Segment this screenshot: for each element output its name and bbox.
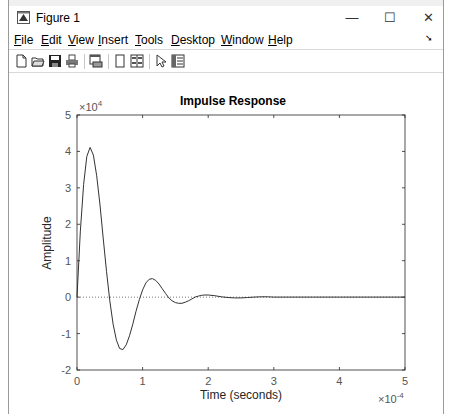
- window-title: Figure 1: [36, 11, 80, 25]
- menu-help-accel: H: [268, 33, 277, 47]
- property-inspector-icon[interactable]: [171, 54, 185, 68]
- x-axis-exponent: ×10-4: [378, 391, 404, 405]
- title-bar[interactable]: Figure 1 — ☐ ✕: [9, 6, 443, 30]
- figure-window: Figure 1 — ☐ ✕ File Edit View Insert Too…: [8, 0, 444, 414]
- hide-plot-tools-icon[interactable]: [113, 54, 127, 68]
- svg-text:×104: ×104: [79, 99, 103, 113]
- x-tick-label: 0: [74, 375, 80, 387]
- toolbar-separator: [108, 54, 109, 69]
- x-tick-label: 1: [140, 375, 146, 387]
- menu-window-accel: W: [221, 33, 232, 47]
- y-tick-label: -2: [61, 364, 71, 376]
- menu-file-label: ile: [21, 33, 33, 47]
- x-tick-label: 5: [402, 375, 408, 387]
- menu-view-label: iew: [76, 33, 94, 47]
- maximize-button[interactable]: ☐: [375, 8, 405, 28]
- menu-help[interactable]: Help: [268, 33, 293, 47]
- toolbar-separator: [149, 54, 150, 69]
- link-plot-icon[interactable]: [89, 54, 103, 68]
- menu-desktop[interactable]: Desktop: [171, 33, 215, 47]
- print-icon[interactable]: [65, 54, 79, 68]
- y-tick-label: 5: [65, 109, 71, 121]
- y-axis-label: Amplitude: [40, 216, 54, 270]
- impulse-curve: [77, 147, 405, 349]
- menu-tools-label: ools: [141, 33, 163, 47]
- figure-canvas[interactable]: Impulse Response Amplitude Time (seconds…: [9, 73, 443, 414]
- menu-view[interactable]: View: [68, 33, 94, 47]
- menu-file[interactable]: File: [14, 33, 33, 47]
- menu-edit-label: dit: [49, 33, 62, 47]
- menu-view-accel: V: [68, 33, 76, 47]
- open-file-icon[interactable]: [31, 54, 45, 68]
- toolbar-separator: [84, 54, 85, 69]
- show-plot-tools-icon[interactable]: [130, 54, 144, 68]
- menu-edit-accel: E: [41, 33, 49, 47]
- dock-arrow-icon[interactable]: ➘: [425, 33, 433, 43]
- menu-help-label: elp: [277, 33, 293, 47]
- y-tick-label: 1: [65, 255, 71, 267]
- menu-bar: File Edit View Insert Tools Desktop Wind…: [9, 30, 443, 49]
- menu-desktop-accel: D: [171, 33, 180, 47]
- y-tick-label: 3: [65, 182, 71, 194]
- x-tick-label: 3: [271, 375, 277, 387]
- figure-toolbar: [9, 49, 443, 73]
- axes-box: [77, 115, 405, 370]
- menu-window[interactable]: Window: [221, 33, 264, 47]
- menu-window-label: indow: [232, 33, 263, 47]
- edit-plot-arrow-icon[interactable]: [154, 54, 168, 68]
- x-tick-label: 2: [205, 375, 211, 387]
- chart-title: Impulse Response: [180, 94, 286, 108]
- menu-desktop-label: esktop: [180, 33, 215, 47]
- menu-tools[interactable]: Tools: [135, 33, 163, 47]
- svg-text:×10-4: ×10-4: [378, 391, 404, 405]
- minimize-button[interactable]: —: [337, 8, 367, 28]
- menu-insert[interactable]: Insert: [98, 33, 128, 47]
- menu-insert-label: nsert: [101, 33, 128, 47]
- y-tick-label: 4: [65, 145, 71, 157]
- save-icon[interactable]: [48, 54, 62, 68]
- impulse-response-chart[interactable]: Impulse Response Amplitude Time (seconds…: [9, 73, 445, 414]
- x-axis-label: Time (seconds): [200, 388, 282, 402]
- close-button[interactable]: ✕: [413, 8, 443, 28]
- new-figure-icon[interactable]: [14, 54, 28, 68]
- y-tick-label: 0: [65, 291, 71, 303]
- axis-ticks: 012345-2-1012345: [61, 109, 408, 387]
- y-axis-exponent: ×104: [79, 99, 103, 113]
- y-tick-label: -1: [61, 328, 71, 340]
- menu-edit[interactable]: Edit: [41, 33, 62, 47]
- y-tick-label: 2: [65, 218, 71, 230]
- x-tick-label: 4: [336, 375, 342, 387]
- matlab-figure-icon: [17, 11, 30, 24]
